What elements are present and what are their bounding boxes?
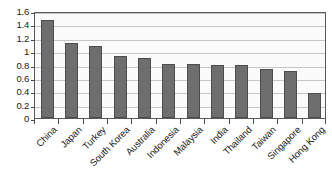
y-axis-tick-label: 0.2	[16, 101, 29, 111]
bar	[114, 56, 127, 118]
bar	[308, 93, 321, 118]
y-axis-tick-label: 0.4	[16, 87, 29, 97]
bar	[260, 69, 273, 118]
y-axis-tick-label: 1.4	[16, 20, 29, 30]
bar	[89, 46, 102, 118]
y-axis-tick-label: 0.8	[16, 61, 29, 71]
bar	[235, 65, 248, 118]
plot-area	[34, 12, 326, 119]
y-axis-tick-label: 0.6	[16, 74, 29, 84]
x-axis-category-labels: ChinaJapanTurkeySouth KoreaAustraliaIndo…	[0, 124, 332, 183]
bar	[138, 58, 151, 118]
y-axis-tick-label: 1.2	[16, 34, 29, 44]
y-axis-tick-label: 1.6	[16, 7, 29, 17]
bar	[211, 65, 224, 118]
bar	[162, 64, 175, 118]
bar	[41, 20, 54, 118]
bar-chart-figure: 00.20.40.60.811.21.41.6 ChinaJapanTurkey…	[0, 0, 332, 183]
bar	[187, 64, 200, 118]
bar	[284, 71, 297, 118]
y-axis-tick-label: 0	[24, 114, 29, 124]
bar	[65, 43, 78, 118]
bars-group	[35, 13, 325, 118]
y-axis-tick-label: 1	[24, 47, 29, 57]
